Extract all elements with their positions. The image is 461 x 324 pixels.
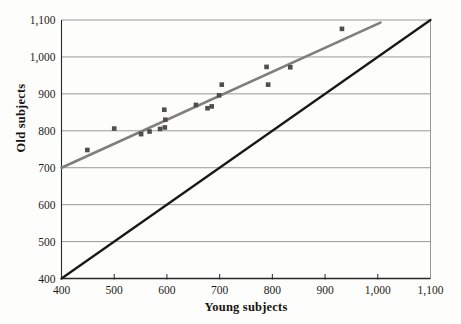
data-point [158,127,163,132]
data-point [147,129,152,134]
x-tick-label: 800 [264,284,282,296]
y-tick-label: 600 [38,199,56,211]
scatter-chart-canvas: 4005006007008009001,0001,100400500600700… [0,0,461,324]
data-point [85,148,90,153]
x-tick-label: 700 [211,284,229,296]
x-tick-label: 1,100 [418,284,444,297]
x-tick-label: 600 [158,284,176,296]
x-tick-label: 400 [53,284,71,296]
x-tick-label: 500 [106,284,124,296]
y-tick-label: 800 [38,125,56,137]
data-point [209,104,214,109]
x-axis-title: Young subjects [0,300,461,315]
data-point [194,103,199,108]
brinley-plot-figure: 4005006007008009001,0001,100400500600700… [0,0,461,324]
data-point [266,82,271,87]
y-tick-label: 700 [38,162,56,174]
data-point [219,82,224,87]
y-tick-label: 1,000 [30,51,56,64]
y-axis-title: Old subjects [14,28,29,208]
identity-line [62,20,431,279]
data-point [340,27,345,32]
data-point [112,126,117,131]
data-point [163,125,168,130]
data-point [288,65,293,70]
y-tick-label: 500 [38,236,56,248]
y-tick-label: 900 [38,88,56,100]
data-point [139,132,144,137]
data-point [217,93,222,98]
y-tick-label: 400 [38,273,56,285]
x-tick-label: 900 [316,284,334,296]
data-point [205,106,210,111]
data-point [162,107,167,112]
x-tick-label: 1,000 [365,284,391,297]
y-tick-label: 1,100 [30,14,56,27]
data-point [163,117,168,122]
data-point [264,65,269,70]
